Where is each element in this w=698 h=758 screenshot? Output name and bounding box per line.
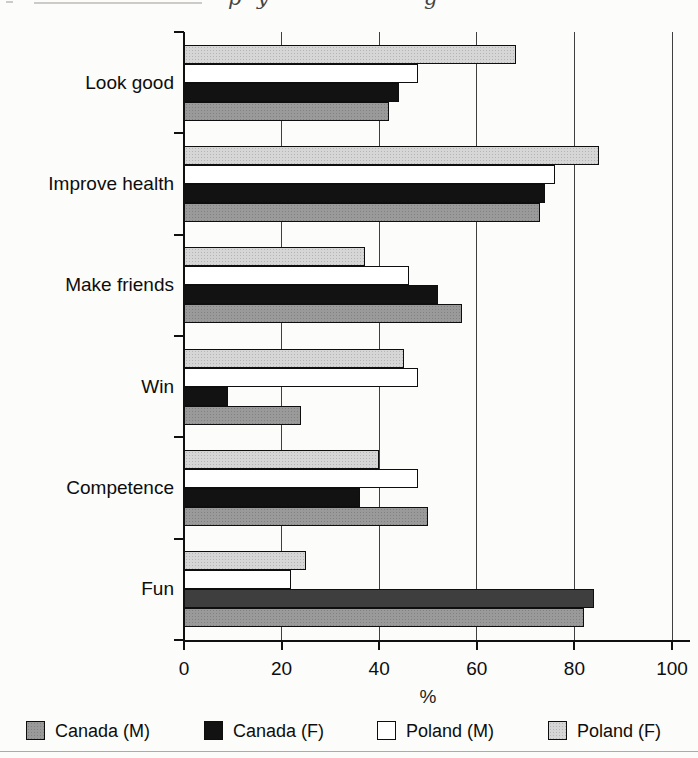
legend-swatch-poland-f [548, 721, 567, 740]
bar-poland-f-look-good [184, 45, 516, 64]
bar-canada-m-competence [184, 507, 428, 526]
category-label-make-friends: Make friends [65, 273, 174, 297]
category-label-look-good: Look good [85, 71, 174, 95]
legend-swatch-poland-m [377, 721, 396, 740]
bottom-rule [0, 751, 698, 752]
x-axis-tick [671, 640, 673, 650]
bar-canada-m-win [184, 406, 301, 425]
y-axis-tick [174, 234, 184, 236]
x-tick-label-20: 20 [252, 658, 312, 680]
bar-canada-m-improve-health [184, 203, 540, 222]
category-label-win: Win [141, 375, 174, 399]
bar-poland-f-win [184, 349, 404, 368]
bar-poland-m-competence [184, 469, 418, 488]
y-axis-tick [174, 132, 184, 134]
plot-area: 020406080100Look goodImprove healthMake … [0, 0, 698, 758]
x-axis-tick [476, 640, 478, 650]
y-axis-tick [174, 538, 184, 540]
legend-swatch-canada-f [204, 721, 223, 740]
category-label-improve-health: Improve health [48, 172, 174, 196]
x-tick-label-40: 40 [349, 658, 409, 680]
gridline-100 [672, 32, 673, 640]
bar-canada-m-look-good [184, 102, 389, 121]
x-axis-tick [281, 640, 283, 650]
figure-root: pyg 020406080100Look goodImprove healthM… [0, 0, 698, 758]
bar-poland-m-look-good [184, 64, 418, 83]
y-axis-tick [174, 31, 184, 33]
bar-canada-f-improve-health [184, 184, 545, 203]
bar-canada-f-competence [184, 488, 360, 507]
bar-poland-f-fun [184, 551, 306, 570]
legend-item-poland-m: Poland (M) [377, 721, 494, 743]
y-axis-tick [174, 335, 184, 337]
category-label-competence: Competence [66, 476, 174, 500]
y-axis-tick [174, 436, 184, 438]
bar-canada-m-make-friends [184, 304, 462, 323]
bar-poland-m-win [184, 368, 418, 387]
x-axis-tick [573, 640, 575, 650]
bar-canada-f-look-good [184, 83, 399, 102]
gridline-20 [281, 32, 282, 640]
legend: Canada (M)Canada (F)Poland (M)Poland (F) [0, 721, 698, 747]
bar-canada-f-win [184, 387, 228, 406]
bar-poland-m-make-friends [184, 266, 409, 285]
legend-item-canada-f: Canada (F) [204, 721, 324, 743]
bar-poland-m-improve-health [184, 165, 555, 184]
x-axis-line [183, 640, 690, 642]
legend-swatch-canada-m [26, 721, 45, 740]
gridline-40 [379, 32, 380, 640]
category-label-fun: Fun [141, 577, 174, 601]
bar-poland-f-improve-health [184, 146, 599, 165]
x-tick-label-60: 60 [447, 658, 507, 680]
legend-label-canada-f: Canada (F) [233, 721, 324, 741]
legend-item-poland-f: Poland (F) [548, 721, 661, 743]
legend-label-canada-m: Canada (M) [55, 721, 150, 741]
y-axis-line [183, 32, 185, 642]
bar-poland-f-make-friends [184, 247, 365, 266]
legend-label-poland-m: Poland (M) [406, 721, 494, 741]
bar-canada-f-fun [184, 589, 594, 608]
gridline-60 [476, 32, 477, 640]
bar-canada-f-make-friends [184, 285, 438, 304]
x-tick-label-80: 80 [544, 658, 604, 680]
x-axis-title: % [398, 686, 458, 708]
x-tick-label-0: 0 [154, 658, 214, 680]
gridline-80 [574, 32, 575, 640]
x-axis-tick [183, 640, 185, 650]
legend-item-canada-m: Canada (M) [26, 721, 150, 743]
x-axis-tick [378, 640, 380, 650]
legend-label-poland-f: Poland (F) [577, 721, 661, 741]
bar-poland-f-competence [184, 450, 379, 469]
bar-canada-m-fun [184, 608, 584, 627]
x-tick-label-100: 100 [642, 658, 698, 680]
bar-poland-m-fun [184, 570, 291, 589]
